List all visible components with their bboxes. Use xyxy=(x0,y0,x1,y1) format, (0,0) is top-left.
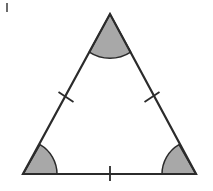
triangle-figure: Triangle diagram xyxy=(0,0,213,191)
geometry-diagram xyxy=(0,0,213,191)
scan-speck-artifact xyxy=(6,3,8,12)
